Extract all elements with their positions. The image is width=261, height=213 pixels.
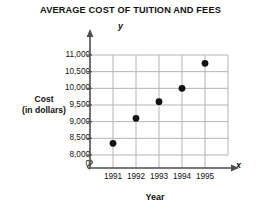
grid-lines bbox=[90, 55, 228, 168]
data-point bbox=[156, 98, 163, 105]
axis-lines bbox=[87, 29, 239, 171]
plot-area bbox=[0, 0, 261, 213]
y-axis-arrow bbox=[87, 29, 94, 37]
data-point bbox=[202, 60, 209, 67]
data-point bbox=[110, 140, 117, 147]
tuition-cost-scatter-chart: AVERAGE COST OF TUITION AND FEES y x Cos… bbox=[0, 0, 261, 213]
data-point bbox=[179, 85, 186, 92]
x-axis-arrow bbox=[231, 165, 239, 172]
data-point bbox=[133, 115, 140, 122]
